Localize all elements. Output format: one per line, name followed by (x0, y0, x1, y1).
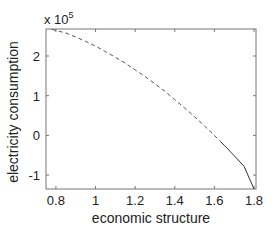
y-tick-label: -1 (28, 168, 40, 183)
x-axis-label: economic structure (92, 210, 210, 226)
x-tick-label: 1.8 (245, 193, 263, 208)
y-axis-label: electricity consumption (5, 41, 21, 183)
x-tick-label: 1.6 (205, 193, 223, 208)
axes-box (46, 29, 256, 189)
line-chart: 0.811.21.41.61.8 -1012 x 105 economic st… (0, 0, 277, 230)
x-tick-label: 0.8 (47, 193, 65, 208)
y-axis-multiplier: x 105 (44, 10, 74, 27)
x-tick-label: 1.4 (166, 193, 184, 208)
y-tick-label: 2 (33, 49, 40, 64)
y-tick-label: 0 (33, 128, 40, 143)
plot-frame (46, 29, 256, 189)
x-tick-label: 1 (92, 193, 99, 208)
x-tick-label: 1.2 (126, 193, 144, 208)
y-tick-label: 1 (33, 89, 40, 104)
